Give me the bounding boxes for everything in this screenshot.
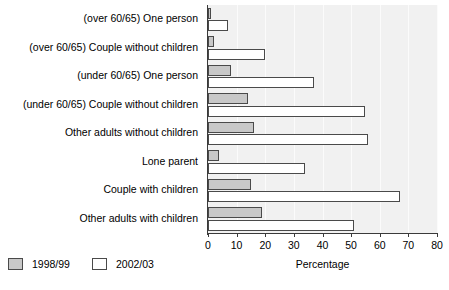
tick-label: 20 <box>250 239 280 251</box>
bar <box>208 179 251 190</box>
tick-label: 70 <box>393 239 423 251</box>
bar <box>208 122 254 133</box>
legend-label: 2002/03 <box>116 258 154 270</box>
legend: 1998/992002/03 <box>8 258 176 270</box>
tick-mark <box>437 233 438 237</box>
category-label: Couple with children <box>0 184 198 195</box>
bar <box>208 20 228 31</box>
category-label: Lone parent <box>0 156 198 167</box>
bar <box>208 207 262 218</box>
bar <box>208 77 314 88</box>
category-label: (over 60/65) One person <box>0 13 198 24</box>
tick-label: 40 <box>308 239 338 251</box>
tick-mark <box>265 233 266 237</box>
legend-swatch <box>92 258 107 270</box>
bar <box>208 150 219 161</box>
bar <box>208 49 265 60</box>
bar-chart: (over 60/65) One person(over 60/65) Coup… <box>0 0 449 290</box>
y-axis-line <box>207 5 208 235</box>
tick-label: 0 <box>193 239 223 251</box>
tick-label: 50 <box>336 239 366 251</box>
bar <box>208 220 354 231</box>
category-label: (under 60/65) One person <box>0 70 198 81</box>
bar <box>208 106 365 117</box>
category-label: (over 60/65) Couple without children <box>0 42 198 53</box>
gridline <box>408 5 409 233</box>
legend-item: 2002/03 <box>92 258 154 270</box>
tick-mark <box>323 233 324 237</box>
tick-label: 30 <box>279 239 309 251</box>
tick-label: 10 <box>222 239 252 251</box>
bar <box>208 36 214 47</box>
legend-item: 1998/99 <box>8 258 70 270</box>
tick-mark <box>294 233 295 237</box>
bar <box>208 8 211 19</box>
category-label: Other adults with children <box>0 213 198 224</box>
category-label: (under 60/65) Couple without children <box>0 99 198 110</box>
tick-mark <box>380 233 381 237</box>
tick-mark <box>208 233 209 237</box>
bar <box>208 134 368 145</box>
tick-mark <box>351 233 352 237</box>
bar <box>208 93 248 104</box>
bar <box>208 191 400 202</box>
tick-mark <box>237 233 238 237</box>
gridline <box>437 5 438 233</box>
x-axis-title: Percentage <box>208 258 437 270</box>
tick-mark <box>408 233 409 237</box>
tick-label: 60 <box>365 239 395 251</box>
category-label: Other adults without children <box>0 127 198 138</box>
plot-area <box>208 5 437 233</box>
legend-label: 1998/99 <box>32 258 70 270</box>
bar <box>208 163 305 174</box>
tick-label: 80 <box>422 239 449 251</box>
legend-swatch <box>8 258 23 270</box>
category-axis-labels: (over 60/65) One person(over 60/65) Coup… <box>0 5 203 233</box>
bar <box>208 65 231 76</box>
